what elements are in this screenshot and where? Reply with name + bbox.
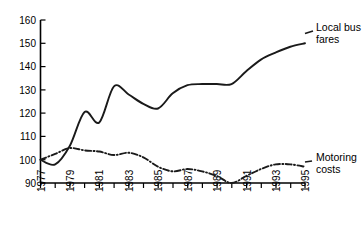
x-tick-label: 1991 xyxy=(242,169,253,192)
series-label-local-bus-fares: Local bus fares xyxy=(316,21,361,45)
y-axis-labels: 160 150 140 130 120 110 100 90 xyxy=(19,15,36,189)
chart-container: 160 150 140 130 120 110 100 90 xyxy=(0,0,363,227)
x-tick-label: 1993 xyxy=(271,169,282,192)
x-tick-label: 1985 xyxy=(153,169,164,192)
y-tick-label: 120 xyxy=(19,108,36,119)
x-tick-label: 1979 xyxy=(65,169,76,192)
leader-line-local-bus-fares xyxy=(305,31,313,34)
x-axis-labels: 1977 1979 1981 1983 1985 1987 1989 1991 … xyxy=(36,169,312,192)
y-tick-label: 130 xyxy=(19,85,36,96)
x-tick-label: 1987 xyxy=(183,169,194,192)
y-tick-label: 150 xyxy=(19,38,36,49)
y-tick-label: 160 xyxy=(19,15,36,26)
line-chart: 160 150 140 130 120 110 100 90 xyxy=(0,0,363,227)
series-line-motoring-costs xyxy=(41,148,306,183)
series-label-line1: Local bus xyxy=(316,21,361,33)
y-tick-label: 140 xyxy=(19,61,36,72)
series-line-local-bus-fares xyxy=(41,43,306,165)
series-label-motoring-costs: Motoring costs xyxy=(316,151,357,175)
y-tick-label: 100 xyxy=(19,155,36,166)
x-tick-label: 1995 xyxy=(300,169,311,192)
y-tick-label: 110 xyxy=(20,131,36,142)
x-tick-label: 1989 xyxy=(212,169,223,192)
series-label-line1: Motoring xyxy=(316,151,357,163)
x-tick-label: 1983 xyxy=(124,169,135,192)
series-label-line2: fares xyxy=(316,33,339,45)
series-label-line2: costs xyxy=(316,163,341,175)
x-tick-label: 1977 xyxy=(36,169,47,192)
x-tick-label: 1981 xyxy=(94,169,105,192)
leader-line-motoring-costs xyxy=(305,161,312,162)
